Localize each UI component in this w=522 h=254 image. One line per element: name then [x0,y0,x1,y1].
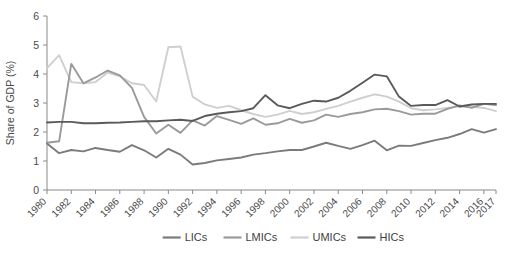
x-tick-label: 2002 [292,195,316,219]
y-axis-title: Share of GDP (%) [4,61,16,145]
line-chart: 0123456Share of GDP (%)19801982198419861… [0,0,522,254]
legend-label-hics[interactable]: HICs [380,231,405,243]
x-tick-label: 1988 [122,195,146,219]
x-tick-label: 1998 [243,195,267,219]
x-tick-label: 1990 [146,195,170,219]
x-tick-label: 1992 [171,195,195,219]
x-tick-label: 2014 [437,195,461,219]
series-line-umics [47,46,496,116]
y-tick-label: 5 [33,39,39,51]
y-tick-label: 3 [33,97,39,109]
legend-label-umics[interactable]: UMICs [313,231,347,243]
series-line-lics [47,129,496,164]
x-tick-label: 2000 [268,195,292,219]
x-tick-label: 2008 [365,195,389,219]
x-tick-label: 1996 [219,195,243,219]
chart-figure: 0123456Share of GDP (%)19801982198419861… [0,0,522,254]
legend-label-lics[interactable]: LICs [185,231,208,243]
y-tick-label: 6 [33,10,39,22]
x-tick-label: 1984 [73,195,97,219]
y-tick-label: 2 [33,126,39,138]
legend-label-lmics[interactable]: LMICs [246,231,278,243]
x-tick-label: 2004 [316,195,340,219]
x-tick-label: 1986 [98,195,122,219]
x-tick-label: 2012 [413,195,437,219]
y-tick-label: 0 [33,184,39,196]
y-tick-label: 1 [33,155,39,167]
x-tick-label: 2006 [340,195,364,219]
x-tick-label: 1982 [49,195,73,219]
x-tick-label: 1980 [25,195,49,219]
series-line-lmics [47,64,496,143]
x-tick-label: 1994 [195,195,219,219]
x-tick-label: 2010 [389,195,413,219]
y-tick-label: 4 [33,68,39,80]
